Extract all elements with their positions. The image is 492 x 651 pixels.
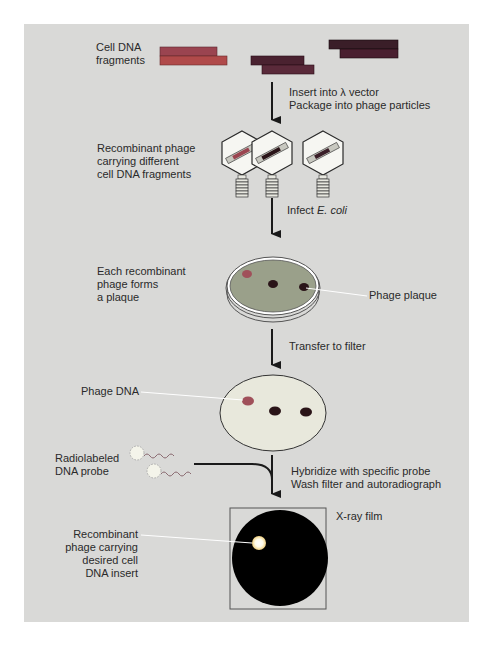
label-line: carrying different xyxy=(97,155,179,167)
label-phage-plaque: Phage plaque xyxy=(369,289,437,302)
label-line: Cell DNA xyxy=(96,41,141,53)
radiolabeled-probe xyxy=(130,446,191,478)
plaque-dark xyxy=(268,280,278,288)
probe-merge-line xyxy=(194,464,272,480)
label-line: phage carrying xyxy=(65,541,138,553)
label-xray-film: X-ray film xyxy=(336,510,382,523)
label-insert-package: Insert into λ vectorPackage into phage p… xyxy=(289,86,430,112)
label-line: phage forms xyxy=(97,278,158,290)
label-line: desired cell xyxy=(82,554,138,566)
label-line: Infect xyxy=(287,204,317,216)
label-line: cell DNA fragments xyxy=(97,168,191,180)
phage-particle-2 xyxy=(252,131,292,197)
label-line: Hybridize with specific probe xyxy=(291,465,430,477)
recombinant-leader xyxy=(141,535,252,543)
label-line: fragments xyxy=(96,54,145,66)
xray-film xyxy=(230,508,328,609)
label-hybridize-wash: Hybridize with specific probeWash filter… xyxy=(291,465,441,491)
label-italic: E. coli xyxy=(317,204,347,216)
plaque-dark xyxy=(299,283,309,291)
label-line: Insert into λ vector xyxy=(289,86,379,98)
filter-disk xyxy=(220,375,326,451)
label-line: Package into phage particles xyxy=(289,99,430,111)
label-line: Wash filter and autoradiograph xyxy=(291,478,441,490)
label-transfer-to-filter: Transfer to filter xyxy=(289,340,366,353)
label-line: Each recombinant xyxy=(97,265,186,277)
label-recombinant-phage: Recombinant phagecarrying differentcell … xyxy=(97,142,195,181)
label-line: Radiolabeled xyxy=(55,452,119,464)
label-line: Recombinant xyxy=(73,528,138,540)
label-line: a plaque xyxy=(97,291,139,303)
plaque-light xyxy=(242,270,252,278)
label-line: DNA probe xyxy=(55,465,109,477)
label-radiolabeled-probe: RadiolabeledDNA probe xyxy=(55,452,119,478)
label-line: DNA insert xyxy=(85,567,138,579)
phage-particle-3 xyxy=(303,131,343,197)
label-each-recombinant: Each recombinantphage formsa plaque xyxy=(97,265,186,304)
label-phage-dna: Phage DNA xyxy=(81,385,139,398)
cell-dna-fragments xyxy=(160,40,398,74)
label-infect-ecoli: Infect E. coli xyxy=(287,204,347,217)
label-cell-dna-fragments: Cell DNAfragments xyxy=(96,41,145,67)
label-line: Recombinant phage xyxy=(97,142,195,154)
positive-signal-spot xyxy=(252,536,266,550)
petri-dish xyxy=(226,257,320,322)
label-recombinant-desired: Recombinantphage carryingdesired cellDNA… xyxy=(40,528,138,580)
